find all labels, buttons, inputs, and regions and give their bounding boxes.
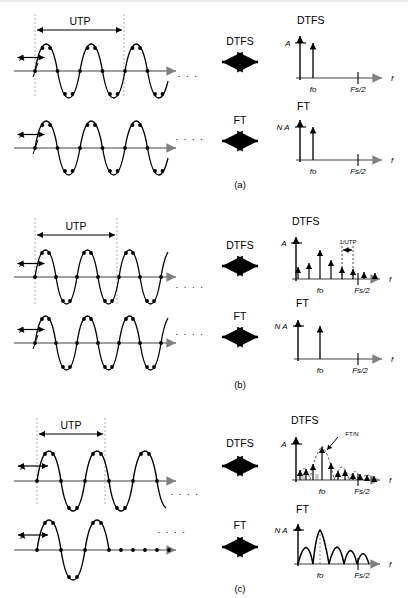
annotation-label: FT/N [345,431,358,437]
spectrum-title: FT [296,297,309,309]
transform-arrow-a-dtfs: DTFS [222,35,258,62]
utp-label: UTP [61,419,82,431]
spectrum-xlabel: f [391,74,394,83]
xtick-fs2: Fs/2 [354,487,370,496]
ft-over-n-annotation: FT/N [327,431,359,450]
annotation-label: 1/UTP [339,239,356,245]
xtick-fo: fo [317,286,324,295]
spectrum-xlabel: f [389,275,392,284]
utp-label: UTP [66,220,87,232]
spectrum-xlabel: f [389,476,392,485]
figure-dtfs-ft: UTP A . . . DTFS DTFS A [0,0,408,598]
spectrum-xlabel: f [391,156,394,165]
spectrum-b-ft: FT N A fo Fs/2 f [274,297,393,375]
spectrum-c-dtfs: DTFS A [280,414,392,496]
amplitude-label: A [19,463,25,472]
waveform-c-ft: A . . . . [14,520,186,580]
spectrum-ylabel: A [280,239,286,248]
utp-marker-b: UTP [35,218,117,304]
amplitude-label: A [18,326,24,335]
panel-b-svg: UTP A . . . . DTFS DTFS A [0,196,408,396]
spectrum-ylabel: N A [276,123,289,132]
xtick-fo: fo [317,366,324,375]
spectrum-ylabel: N A [274,322,287,331]
amplitude-label: A [19,532,25,541]
transform-label: DTFS [226,35,253,47]
time-ellipsis: . . . . [158,524,187,535]
transform-arrow-c-ft: FT [222,519,258,547]
waveform-a-ft: A . . . . [14,121,204,175]
transform-label: FT [234,519,247,531]
waveform-b-ft: A . . . . [14,316,204,370]
amplitude-label: A [18,54,24,63]
panel-c-svg: UTP A . . . . DTFS DTFS A [0,396,408,598]
spectrum-title: DTFS [297,14,324,26]
utp-label: UTP [70,15,91,27]
utp-marker-c: UTP [37,418,105,506]
utp-marker-a: UTP [35,14,124,98]
amplitude-label: A [18,131,24,140]
amplitude-label: A [18,260,24,269]
time-ellipsis: . . . . [171,486,200,497]
spectrum-title: DTFS [291,414,318,426]
waveform-a-dtfs: A . . . [14,44,198,98]
transform-label: FT [234,114,247,126]
time-ellipsis: . . . . [176,326,205,337]
panel-a-svg: UTP A . . . DTFS DTFS A [0,0,408,200]
panel-b: UTP A . . . . DTFS DTFS A [0,196,408,396]
xtick-fo: fo [317,571,324,580]
spectrum-a-ft: FT N A fo Fs/2 f [276,100,393,176]
transform-label: DTFS [226,437,253,449]
transform-arrow-b-dtfs: DTFS [222,239,258,266]
xtick-fs2: Fs/2 [354,571,370,580]
spectrum-title: DTFS [292,215,319,227]
transform-label: DTFS [226,239,253,251]
transform-label: FT [234,310,247,322]
time-ellipsis: . . . . [176,131,205,142]
waveform-b-dtfs: A . . . . [14,250,204,304]
time-ellipsis: . . . [178,68,199,79]
transform-arrow-b-ft: FT [222,310,258,337]
spectrum-title: FT [297,100,310,112]
spectrum-ylabel: N A [274,526,287,535]
spectrum-c-ft: FT N A fo Fs/2 f [274,503,391,580]
waveform-c-dtfs: A . . . . [14,451,199,511]
xtick-fo: fo [319,487,326,496]
xtick-fs2: Fs/2 [352,366,368,375]
spectrum-title: FT [296,503,309,515]
xtick-fs2: Fs/2 [354,286,370,295]
panel-a: UTP A . . . DTFS DTFS A [0,0,408,200]
spectrum-ylabel: A [280,440,286,449]
xtick-fs2: Fs/2 [350,85,366,94]
xtick-fs2: Fs/2 [350,167,366,176]
panel-label-c: (c) [234,583,245,594]
transform-arrow-c-dtfs: DTFS [222,437,258,466]
spectrum-ylabel: A [284,39,290,48]
xtick-fo: fo [310,167,317,176]
time-ellipsis: . . . . [176,279,205,290]
spectrum-xlabel: f [389,560,392,569]
spectrum-b-dtfs: DTFS A 1/UTP fo Fs/2 f [280,215,392,295]
xtick-fo: fo [310,85,317,94]
transform-arrow-a-ft: FT [222,114,258,141]
spectrum-xlabel: f [391,355,394,364]
spectrum-a-dtfs: DTFS A fo Fs/2 f [284,14,394,94]
panel-label-a: (a) [234,179,246,190]
panel-label-b: (b) [234,379,246,390]
panel-c: UTP A . . . . DTFS DTFS A [0,396,408,598]
